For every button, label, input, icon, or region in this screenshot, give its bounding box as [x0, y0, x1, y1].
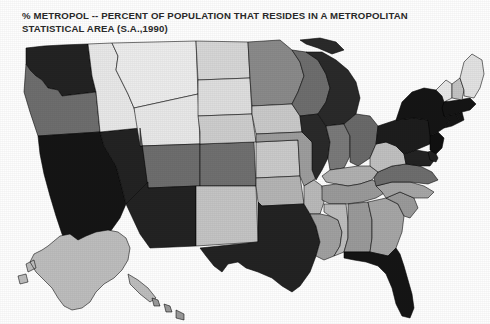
state-MN[interactable]: [248, 40, 304, 106]
state-AR[interactable]: [304, 180, 324, 214]
state-OK[interactable]: [256, 176, 304, 206]
state-AK[interactable]: [18, 230, 156, 310]
title-line-1: % METROPOL -- PERCENT OF POPULATION THAT…: [22, 10, 474, 23]
state-GA[interactable]: [368, 198, 404, 256]
state-ND[interactable]: [196, 41, 250, 80]
state-NJ[interactable]: [430, 132, 444, 154]
title-line-2: STATISTICAL AREA (S.A.,1990): [22, 23, 474, 36]
state-IN[interactable]: [326, 124, 350, 170]
state-SD[interactable]: [198, 78, 252, 116]
state-AL[interactable]: [344, 202, 372, 252]
state-HI[interactable]: [152, 298, 184, 320]
us-states-svg: [0, 36, 490, 324]
state-NE[interactable]: [198, 114, 256, 144]
state-IA[interactable]: [252, 104, 302, 134]
state-KS[interactable]: [256, 140, 300, 178]
choropleth-map: [0, 36, 490, 324]
state-NM[interactable]: [196, 186, 258, 246]
figure-title: % METROPOL -- PERCENT OF POPULATION THAT…: [22, 10, 474, 35]
state-CO[interactable]: [200, 142, 256, 186]
map-figure: % METROPOL -- PERCENT OF POPULATION THAT…: [0, 0, 490, 324]
state-FL[interactable]: [344, 248, 414, 318]
